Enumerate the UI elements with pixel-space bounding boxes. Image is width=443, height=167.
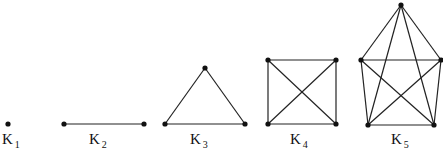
label-name: K	[89, 131, 100, 147]
edge	[434, 60, 441, 125]
graph-label-k2: K2	[89, 131, 107, 150]
label-name: K	[190, 131, 201, 147]
graph-label-k1: K1	[2, 131, 20, 150]
vertex	[242, 121, 247, 126]
label-subscript: 2	[102, 139, 107, 150]
graph-label-k3: K3	[190, 131, 208, 150]
label-subscript: 1	[15, 139, 20, 150]
edge	[368, 60, 441, 125]
graph-k2	[61, 121, 146, 126]
vertex	[162, 121, 167, 126]
edge	[368, 5, 401, 125]
label-subscript: 4	[303, 139, 308, 150]
vertex	[333, 57, 338, 62]
vertex	[5, 121, 10, 126]
edge	[165, 68, 205, 124]
edge	[361, 5, 401, 60]
vertex	[265, 57, 270, 62]
edge	[361, 60, 434, 125]
graph-label-k5: K5	[391, 131, 409, 150]
label-name: K	[290, 131, 301, 147]
graph-label-k4: K4	[290, 131, 308, 150]
vertex	[265, 121, 270, 126]
label-subscript: 3	[203, 139, 208, 150]
edge	[401, 5, 441, 60]
edge	[205, 68, 245, 124]
vertex	[358, 57, 363, 62]
graph-canvas	[0, 0, 443, 167]
label-subscript: 5	[404, 139, 409, 150]
vertex	[141, 121, 146, 126]
label-name: K	[391, 131, 402, 147]
vertex	[61, 121, 66, 126]
graph-k5	[358, 2, 443, 127]
edge	[361, 60, 368, 125]
graph-k4	[265, 57, 338, 126]
label-name: K	[2, 131, 13, 147]
vertex	[333, 121, 338, 126]
vertex	[365, 122, 370, 127]
vertex	[202, 65, 207, 70]
graph-k3	[162, 65, 247, 126]
vertex	[398, 2, 403, 7]
edge	[401, 5, 434, 125]
graph-k1	[5, 121, 10, 126]
vertex	[431, 122, 436, 127]
